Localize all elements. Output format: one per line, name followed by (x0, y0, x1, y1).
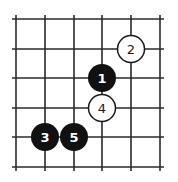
move-number: 5 (69, 130, 78, 145)
move-number: 4 (98, 101, 106, 116)
move-number: 1 (97, 71, 106, 86)
white-stone-4: 4 (89, 95, 116, 122)
black-stone-5: 5 (60, 123, 88, 151)
move-number: 3 (40, 130, 49, 145)
white-stone-2: 2 (118, 36, 145, 63)
stones-layer: 12345 (31, 36, 145, 152)
black-stone-1: 1 (88, 64, 116, 92)
board-grid (12, 15, 164, 171)
black-stone-3: 3 (31, 123, 59, 151)
go-board-diagram: 12345 (0, 0, 178, 182)
move-number: 2 (127, 42, 135, 57)
